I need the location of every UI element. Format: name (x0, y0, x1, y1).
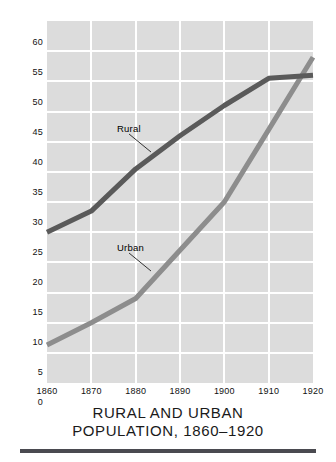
y-tick-55: 55 (3, 68, 43, 77)
urban-leader-line (129, 253, 151, 271)
y-tick-50: 50 (3, 98, 43, 107)
y-tick-30: 30 (3, 218, 43, 227)
x-tick-1890: 1890 (158, 386, 202, 397)
x-tick-1910: 1910 (247, 386, 291, 397)
chart-title-line-1: RURAL AND URBAN (0, 404, 336, 422)
y-axis-tick-labels: 60 55 50 45 40 35 30 25 20 15 10 5 0 (0, 21, 43, 383)
bottom-divider-rule (20, 449, 316, 453)
chart-figure: 60 55 50 45 40 35 30 25 20 15 10 5 0 Pop… (0, 0, 336, 462)
series-line-urban (47, 57, 313, 345)
y-tick-5: 5 (3, 368, 43, 377)
rural-leader-line (129, 134, 151, 152)
x-tick-1880: 1880 (114, 386, 158, 397)
x-tick-1860: 1860 (25, 386, 69, 397)
y-tick-45: 45 (3, 128, 43, 137)
y-tick-10: 10 (3, 338, 43, 347)
series-line-rural (47, 75, 313, 232)
y-tick-40: 40 (3, 158, 43, 167)
y-tick-15: 15 (3, 308, 43, 317)
y-tick-20: 20 (3, 278, 43, 287)
x-axis-tick-labels: 1860 1870 1880 1890 1900 1910 1920 (47, 386, 313, 400)
x-tick-1870: 1870 (69, 386, 113, 397)
y-tick-25: 25 (3, 248, 43, 257)
annotation-urban: Urban (117, 243, 144, 253)
y-tick-60: 60 (3, 38, 43, 47)
chart-title-line-2: POPULATION, 1860–1920 (0, 422, 336, 440)
data-series (47, 21, 313, 383)
plot-area: Rural Urban (47, 21, 313, 383)
y-tick-35: 35 (3, 188, 43, 197)
x-tick-1900: 1900 (202, 386, 246, 397)
annotation-rural: Rural (117, 124, 141, 134)
x-tick-1920: 1920 (291, 386, 335, 397)
chart-title: RURAL AND URBAN POPULATION, 1860–1920 (0, 404, 336, 440)
